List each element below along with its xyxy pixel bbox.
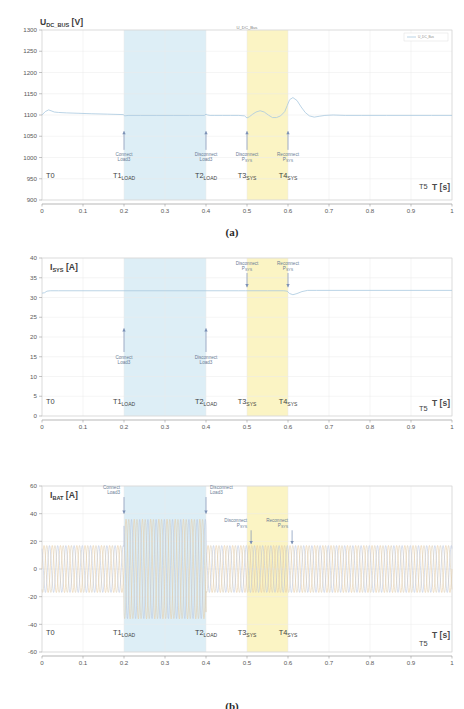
time-marker-T4: T4SYS xyxy=(279,171,298,181)
annotation-label-line2: Load3 xyxy=(200,157,213,162)
x-axis-label: T [s] xyxy=(432,630,450,640)
y-tick-label: -20 xyxy=(28,593,38,600)
panel-c: -60-40-20020406000.10.20.30.40.50.60.70.… xyxy=(0,474,464,706)
panel-a-caption: (a) xyxy=(0,226,464,238)
x-tick-label: 0.1 xyxy=(79,207,88,214)
y-tick-label: 1150 xyxy=(24,90,38,97)
x-tick-label: 0.2 xyxy=(120,423,129,430)
y-tick-label: -60 xyxy=(28,648,38,655)
time-marker-T5: T5 xyxy=(419,404,428,413)
x-tick-label: 0.9 xyxy=(407,423,416,430)
y-tick-label: 1200 xyxy=(23,69,37,76)
annotation-label-line1: Reconnect xyxy=(277,152,300,157)
panel-c-svg: -60-40-20020406000.10.20.30.40.50.60.70.… xyxy=(0,474,464,686)
x-tick-label: 0 xyxy=(40,659,44,666)
panel-b-plot: 051015202530354000.10.20.30.40.50.60.70.… xyxy=(0,248,464,448)
x-tick-label: 0.9 xyxy=(407,659,416,666)
time-marker-T0: T0 xyxy=(46,628,55,637)
time-marker-T4: T4SYS xyxy=(279,628,298,638)
x-tick-label: 0.8 xyxy=(366,207,375,214)
x-tick-label: 0.9 xyxy=(407,207,416,214)
y-tick-label: 20 xyxy=(30,538,37,545)
x-tick-label: 0.7 xyxy=(325,423,334,430)
y-tick-label: 900 xyxy=(27,196,38,203)
time-marker-T0: T0 xyxy=(46,397,55,406)
y-tick-label: 30 xyxy=(30,294,37,301)
panel-c-plot: -60-40-20020406000.10.20.30.40.50.60.70.… xyxy=(0,474,464,686)
y-tick-label: 1000 xyxy=(23,154,37,161)
x-tick-label: 0.8 xyxy=(366,659,375,666)
y-tick-label: 1100 xyxy=(24,111,38,118)
annotation-label-line2: Load3 xyxy=(210,490,223,495)
x-tick-label: 0.5 xyxy=(243,659,252,666)
x-tick-label: 1 xyxy=(450,207,454,214)
annotation-label-line2: Load3 xyxy=(118,360,131,365)
x-tick-label: 1 xyxy=(450,659,454,666)
annotation-label-line1: Reconnect xyxy=(277,261,300,266)
annotation-label-line1: Disconnect xyxy=(236,261,259,266)
x-tick-label: 0.2 xyxy=(120,207,129,214)
x-tick-label: 0.6 xyxy=(284,207,293,214)
y-axis-label: IBAT [A] xyxy=(50,490,78,501)
annotation-arrow-head xyxy=(290,541,293,544)
legend-label: U_DC_Bus xyxy=(418,35,434,39)
time-marker-T4: T4SYS xyxy=(279,397,298,407)
y-tick-label: -40 xyxy=(28,621,38,628)
y-tick-label: 60 xyxy=(30,482,37,489)
y-tick-label: 10 xyxy=(30,373,37,380)
y-axis-label: UDC_BUS [V] xyxy=(40,17,83,28)
panel-a-svg: 900950100010501100115012001250130000.10.… xyxy=(0,4,464,226)
plot-title: U_DC_Bus xyxy=(237,25,258,30)
x-tick-label: 0.4 xyxy=(202,659,211,666)
x-tick-label: 0.3 xyxy=(161,659,170,666)
annotation-label-line2: Load3 xyxy=(200,360,213,365)
x-tick-label: 0.1 xyxy=(79,423,88,430)
x-tick-label: 0 xyxy=(40,207,44,214)
annotation-label-line2: Load3 xyxy=(118,157,131,162)
y-tick-label: 40 xyxy=(30,510,37,517)
time-marker-T5: T5 xyxy=(419,639,428,648)
x-tick-label: 0.4 xyxy=(202,207,211,214)
y-tick-label: 1250 xyxy=(23,47,37,54)
x-tick-label: 0.4 xyxy=(202,423,211,430)
x-tick-label: 0.2 xyxy=(120,659,129,666)
y-tick-label: 25 xyxy=(30,313,37,320)
x-axis-label: T [s] xyxy=(432,398,450,408)
panel-b: 051015202530354000.10.20.30.40.50.60.70.… xyxy=(0,248,464,470)
x-tick-label: 0.5 xyxy=(243,423,252,430)
y-tick-label: 15 xyxy=(30,353,37,360)
y-axis-label: ISYS [A] xyxy=(50,262,78,273)
y-tick-label: 5 xyxy=(34,392,38,399)
x-tick-label: 0.7 xyxy=(325,207,334,214)
x-axis-label: T [s] xyxy=(432,182,450,192)
time-marker-T0: T0 xyxy=(46,171,55,180)
x-tick-label: 0.3 xyxy=(161,207,170,214)
annotation-label-line2: PSYS xyxy=(237,523,248,529)
y-tick-label: 0 xyxy=(34,565,38,572)
x-tick-label: 0 xyxy=(40,423,44,430)
x-tick-label: 1 xyxy=(450,423,454,430)
annotation-label-line2: Load3 xyxy=(107,490,120,495)
x-tick-label: 0.6 xyxy=(284,659,293,666)
y-tick-label: 950 xyxy=(27,175,38,182)
x-tick-label: 0.1 xyxy=(79,659,88,666)
x-tick-label: 0.5 xyxy=(243,207,252,214)
y-tick-label: 1300 xyxy=(23,26,37,33)
panel-b-svg: 051015202530354000.10.20.30.40.50.60.70.… xyxy=(0,248,464,448)
y-tick-label: 0 xyxy=(34,412,38,419)
x-tick-label: 0.3 xyxy=(161,423,170,430)
x-tick-label: 0.7 xyxy=(325,659,334,666)
y-tick-label: 1050 xyxy=(23,132,37,139)
x-tick-label: 0.8 xyxy=(366,423,375,430)
panel-a: 900950100010501100115012001250130000.10.… xyxy=(0,4,464,240)
figure-root: 900950100010501100115012001250130000.10.… xyxy=(0,0,464,709)
y-tick-label: 35 xyxy=(30,274,37,281)
panel-a-plot: 900950100010501100115012001250130000.10.… xyxy=(0,4,464,226)
time-marker-T5: T5 xyxy=(419,182,428,191)
x-tick-label: 0.6 xyxy=(284,423,293,430)
y-tick-label: 40 xyxy=(30,254,37,261)
annotation-label-line1: Disconnect xyxy=(236,152,259,157)
y-tick-label: 20 xyxy=(30,333,37,340)
